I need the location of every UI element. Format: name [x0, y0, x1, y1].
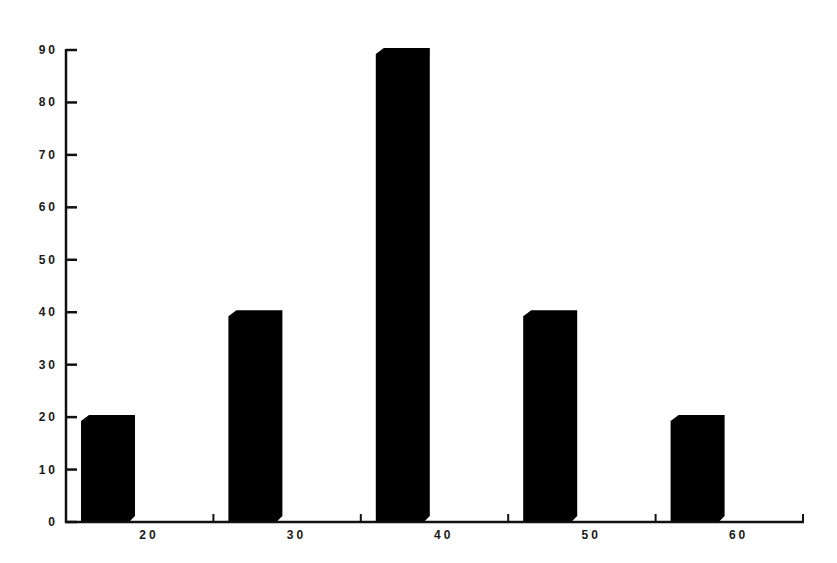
y-tick-label: 90	[39, 43, 58, 57]
y-tick-label: 50	[39, 253, 58, 267]
y-tick-label: 40	[39, 305, 58, 319]
bar-30	[228, 310, 282, 522]
bar-50	[523, 310, 577, 522]
y-tick-label: 10	[39, 463, 58, 477]
x-tick-label: 50	[582, 528, 601, 542]
y-tick-label: 0	[48, 515, 58, 529]
x-tick-label: 30	[287, 528, 306, 542]
y-tick-label: 70	[39, 148, 58, 162]
x-tick-label: 40	[434, 528, 453, 542]
y-axis: 0102030405060708090	[39, 43, 77, 529]
y-tick-label: 60	[39, 200, 58, 214]
bars	[81, 48, 725, 522]
bar-60	[671, 415, 725, 522]
y-tick-label: 30	[39, 358, 58, 372]
x-tick-label: 20	[139, 528, 158, 542]
x-tick-label: 60	[729, 528, 748, 542]
y-tick-label: 20	[39, 410, 58, 424]
y-tick-label: 80	[39, 95, 58, 109]
bar-40	[376, 48, 430, 522]
bar-20	[81, 415, 135, 522]
bar-chart: 0102030405060708090 2030405060	[0, 0, 837, 563]
